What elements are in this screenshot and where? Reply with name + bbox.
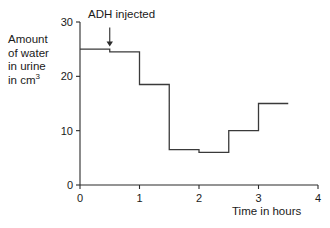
- y-axis-title-line: Amount: [8, 33, 70, 47]
- chart-data-series: [80, 49, 288, 152]
- x-axis-tick-label: 2: [196, 192, 202, 204]
- chart-annotation-arrow: [107, 27, 113, 46]
- y-axis-title-line: of water: [8, 47, 70, 61]
- chart-axes: [76, 22, 318, 189]
- chart-tick-labels: 010203001234: [61, 16, 321, 204]
- annotation-arrow-head: [107, 41, 113, 46]
- y-axis-title: Amountof waterin urinein cm3: [8, 33, 70, 87]
- x-axis-tick-label: 0: [77, 192, 83, 204]
- x-axis-title: Time in hours: [232, 205, 301, 219]
- data-step-line: [80, 49, 288, 152]
- x-axis-tick-label: 1: [136, 192, 142, 204]
- x-axis-tick-label: 4: [315, 192, 321, 204]
- y-axis-tick-label: 30: [61, 16, 73, 28]
- y-axis-title-line: in cm3: [8, 74, 70, 88]
- chart-container: 010203001234 Amountof waterin urinein cm…: [0, 0, 330, 228]
- y-axis-tick-label: 10: [61, 125, 73, 137]
- y-axis-unit-superscript: 3: [35, 72, 39, 81]
- y-axis-tick-label: 0: [67, 179, 73, 191]
- annotation-adh-injected-label: ADH injected: [88, 8, 155, 20]
- x-axis-tick-label: 3: [255, 192, 261, 204]
